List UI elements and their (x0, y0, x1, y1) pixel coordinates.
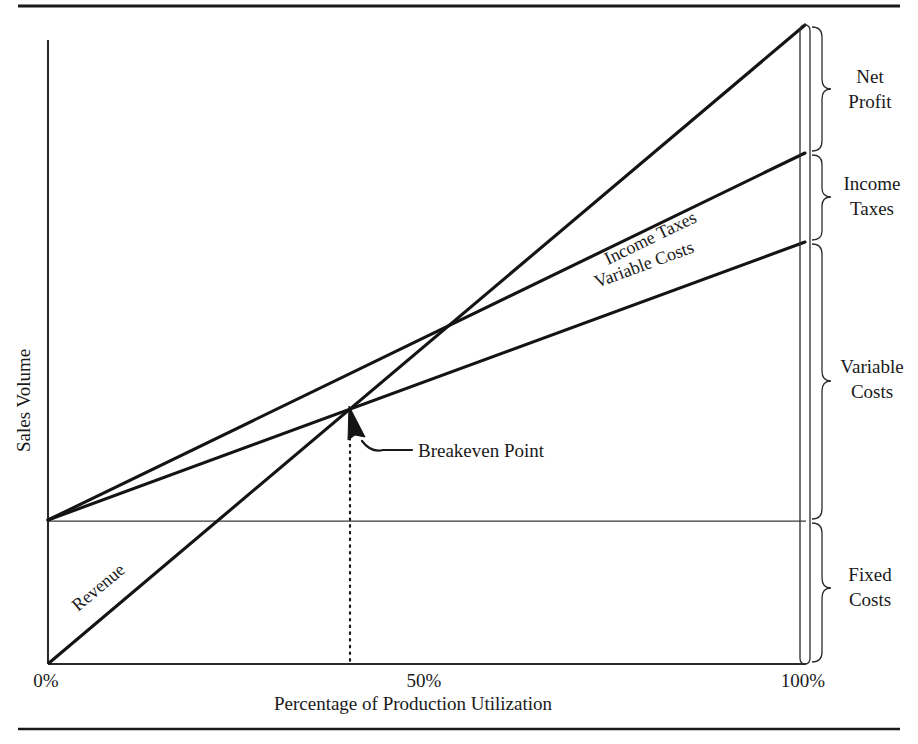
revenue-series-label: Revenue (68, 559, 129, 615)
variable-costs-line (48, 242, 805, 520)
x-axis-title: Percentage of Production Utilization (274, 693, 553, 714)
net-profit-brace (812, 27, 831, 151)
bracket-label-variable-costs-line2: Costs (851, 381, 893, 402)
variable-costs-brace (812, 244, 831, 519)
bracket-label-fixed-costs-line1: Fixed (848, 564, 892, 585)
revenue-line (49, 25, 805, 663)
breakeven-leader-line (362, 441, 383, 451)
breakeven-arrow-icon (348, 406, 365, 440)
y-axis-title: Sales Volume (13, 349, 34, 452)
bracket-label-income-taxes-line2: Taxes (850, 198, 894, 219)
breakeven-point-label: Breakeven Point (418, 440, 545, 461)
bracket-label-income-taxes-line1: Income (844, 173, 901, 194)
right-bracket-spine (800, 25, 810, 664)
fixed-costs-brace (812, 523, 831, 662)
x-tick-label-100: 100% (781, 670, 826, 691)
income-taxes-brace (812, 155, 831, 240)
bracket-label-fixed-costs-line2: Costs (849, 589, 891, 610)
bracket-label-variable-costs-line1: Variable (840, 356, 903, 377)
x-tick-label-50: 50% (407, 670, 442, 691)
x-tick-label-0: 0% (33, 670, 59, 691)
chart-canvas: Sales Volume Percentage of Production Ut… (0, 0, 918, 744)
bracket-label-net-profit-line2: Profit (848, 91, 892, 112)
income-taxes-line (48, 153, 805, 520)
breakeven-chart-figure: Sales Volume Percentage of Production Ut… (0, 0, 918, 744)
bracket-label-net-profit-line1: Net (856, 66, 884, 87)
